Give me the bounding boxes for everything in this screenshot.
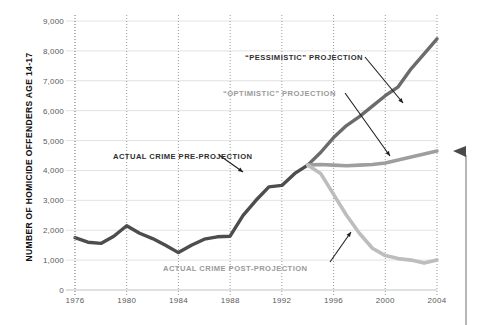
annotation-leader-line-1 bbox=[345, 93, 390, 156]
annotation-arrowhead-2 bbox=[238, 168, 243, 172]
right-edge-arrow-icon bbox=[453, 146, 466, 157]
annotation-arrowhead-1 bbox=[386, 151, 390, 156]
plot-area bbox=[0, 0, 481, 325]
annotation-actual-crime-pre-projection: ACTUAL CRIME PRE-PROJECTION bbox=[113, 152, 252, 161]
annotation-arrowhead-3 bbox=[347, 232, 351, 237]
chart-container: NUMBER OF HOMICIDE OFFENDERS AGE 14-17 0… bbox=[0, 0, 481, 325]
series-optimistic-projection bbox=[308, 151, 437, 166]
annotation-actual-crime-post-projection: ACTUAL CRIME POST-PROJECTION bbox=[163, 264, 308, 273]
annotation-pessimistic-projection: “PESSIMISTIC” PROJECTION bbox=[245, 53, 363, 62]
annotation-optimistic-projection: “OPTIMISTIC” PROJECTION bbox=[223, 89, 336, 98]
series-actual-post-projection bbox=[308, 165, 437, 263]
series-actual-pre-projection bbox=[75, 165, 308, 253]
